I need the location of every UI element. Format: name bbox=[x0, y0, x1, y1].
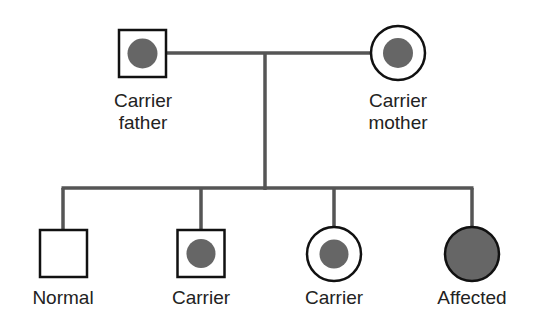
mother-label-line1: Carrier bbox=[354, 90, 442, 112]
mother-carrier-circle-icon bbox=[371, 26, 425, 80]
child3-label: Carrier bbox=[289, 287, 379, 309]
father-label-line2: father bbox=[102, 112, 184, 134]
child-carrier-square-icon bbox=[178, 230, 225, 277]
child4-label: Affected bbox=[422, 287, 522, 309]
pedigree-chart bbox=[0, 0, 537, 324]
mother-label-line2: mother bbox=[354, 112, 442, 134]
child-affected-circle-icon bbox=[445, 227, 499, 281]
father-label: Carrier father bbox=[102, 90, 184, 134]
child2-label: Carrier bbox=[156, 287, 246, 309]
father-carrier-square-icon bbox=[119, 30, 166, 77]
child-carrier-circle-icon bbox=[307, 227, 361, 281]
child1-label: Normal bbox=[18, 287, 108, 309]
father-label-line1: Carrier bbox=[102, 90, 184, 112]
mother-label: Carrier mother bbox=[354, 90, 442, 134]
child-normal-square-icon bbox=[40, 230, 87, 277]
